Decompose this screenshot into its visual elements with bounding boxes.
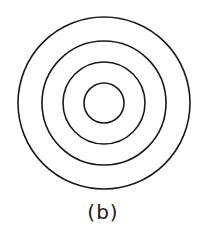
circle-1 <box>18 17 190 189</box>
circles-group <box>18 17 190 189</box>
circle-4 <box>84 83 124 123</box>
circle-2 <box>42 41 166 165</box>
circle-3 <box>63 62 145 144</box>
figure-caption: (b) <box>0 199 206 225</box>
